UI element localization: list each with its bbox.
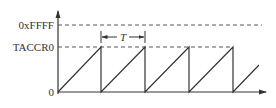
period-label: T <box>120 31 127 43</box>
sawtooth-waveform <box>58 47 259 92</box>
zero-label: 0 <box>49 86 55 98</box>
sawtooth-diagram: T 0xFFFF TACCR0 0 <box>0 0 276 108</box>
max-label: 0xFFFF <box>19 19 54 31</box>
ccr-label: TACCR0 <box>13 41 55 53</box>
